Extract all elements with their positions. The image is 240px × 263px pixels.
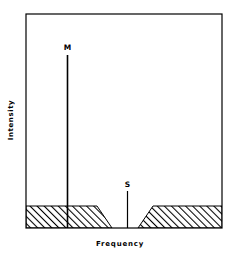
continuum-band-left <box>26 206 112 228</box>
satellite-peak-label: S <box>125 180 130 189</box>
main-peak-label: M <box>64 43 71 52</box>
spectrum-figure: M S Intensity Frequency <box>0 0 240 263</box>
plot-background <box>26 14 222 228</box>
continuum-band-right <box>138 206 222 228</box>
x-axis-label: Frequency <box>0 240 240 248</box>
spectrum-plot: M S <box>0 0 240 263</box>
